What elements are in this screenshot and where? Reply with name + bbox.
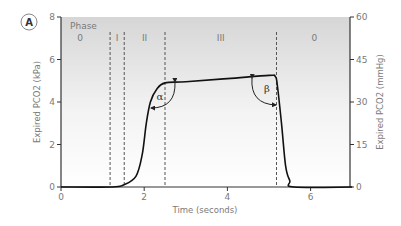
y-axis-title-right: Expired PCO2 (mmHg)	[375, 54, 385, 150]
svg-text:β: β	[264, 83, 270, 94]
svg-text:45: 45	[356, 55, 367, 65]
svg-text:2: 2	[49, 140, 55, 150]
phase-label: 0	[77, 33, 83, 43]
svg-text:6: 6	[49, 55, 55, 65]
phase-label: III	[217, 33, 225, 43]
svg-text:60: 60	[356, 12, 368, 22]
svg-text:30: 30	[356, 97, 368, 107]
panel-label-badge: A	[21, 14, 37, 30]
phase-label: I	[116, 33, 119, 43]
svg-text:4: 4	[49, 97, 55, 107]
svg-text:4: 4	[225, 192, 231, 202]
y-ticks-right: 015304560	[350, 12, 368, 192]
svg-text:A: A	[25, 17, 33, 28]
svg-text:0: 0	[49, 182, 55, 192]
svg-text:6: 6	[308, 192, 314, 202]
phase-label: II	[142, 33, 147, 43]
svg-text:8: 8	[49, 12, 55, 22]
svg-text:15: 15	[356, 140, 367, 150]
svg-text:0: 0	[356, 182, 362, 192]
y-axis-title-left: Expired PCO2 (kPa)	[32, 61, 42, 143]
phase-header: Phase	[70, 21, 97, 31]
x-axis-title: Time (seconds)	[172, 205, 238, 215]
capnogram-chart: A Phase 0IIIIII0 02468 015304560 0246 Ex…	[0, 0, 401, 226]
plot-background	[61, 17, 350, 187]
x-ticks: 0246	[58, 187, 314, 202]
phase-label: 0	[311, 33, 317, 43]
y-ticks-left: 02468	[49, 12, 61, 192]
svg-text:0: 0	[58, 192, 64, 202]
svg-text:2: 2	[141, 192, 147, 202]
svg-text:α: α	[157, 91, 164, 102]
